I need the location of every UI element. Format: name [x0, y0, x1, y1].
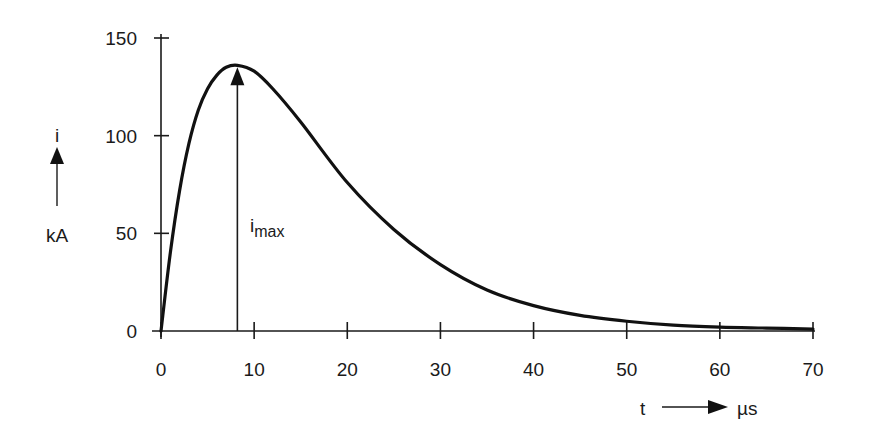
x-tick-label: 20	[337, 359, 358, 380]
x-axis-symbol: t	[640, 398, 646, 419]
x-axis-unit: µs	[737, 398, 757, 419]
y-arrow-icon	[50, 147, 64, 206]
x-tick-label: 30	[430, 359, 451, 380]
x-tick-labels: 010203040506070	[156, 359, 824, 380]
y-axis-symbol: i	[55, 125, 59, 146]
y-tick-label: 150	[105, 28, 137, 49]
imax-arrow	[230, 67, 244, 331]
y-tick-labels: 050100150	[105, 28, 137, 342]
imax-label: imax	[250, 215, 284, 240]
lightning-current-chart: 050100150 010203040506070 imax i kA t µs	[0, 0, 871, 434]
y-tick-label: 100	[105, 126, 137, 147]
x-tick-label: 10	[244, 359, 265, 380]
x-tick-label: 50	[616, 359, 637, 380]
x-tick-label: 0	[156, 359, 167, 380]
x-tick-label: 70	[802, 359, 823, 380]
x-tick-label: 60	[709, 359, 730, 380]
y-axis-unit: kA	[46, 225, 69, 246]
current-curve	[161, 65, 813, 331]
y-tick-label: 50	[116, 223, 137, 244]
x-tick-label: 40	[523, 359, 544, 380]
y-tick-label: 0	[126, 321, 137, 342]
x-arrow-icon	[662, 400, 728, 414]
